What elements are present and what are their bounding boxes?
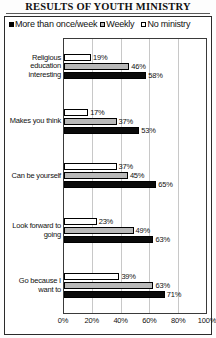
bar-row: 17% (64, 109, 206, 116)
bar-value-label: 58% (148, 71, 162, 80)
bar-value-label: 63% (155, 281, 169, 290)
bar-value-label: 19% (93, 53, 107, 62)
chart-frame: More than once/weekWeeklyNo ministry 19%… (4, 16, 212, 335)
bar-row: 63% (64, 282, 206, 289)
bar-row: 63% (64, 236, 206, 243)
legend-label: More than once/week (15, 19, 97, 29)
black-square-icon (9, 22, 14, 27)
bar-group: 37%45%65% (64, 149, 206, 204)
bar-group: 39%63%71% (64, 258, 206, 313)
bar-value-label: 49% (136, 226, 150, 235)
legend-label: No ministry (147, 19, 190, 29)
page-title: RESULTS OF YOUTH MINISTRY (0, 0, 216, 12)
bar-black (64, 127, 139, 134)
category-label: Look forward togoing (7, 222, 61, 239)
bar-value-label: 53% (141, 126, 155, 135)
x-tick-label: 20% (85, 316, 99, 325)
x-tick-label: 80% (171, 316, 185, 325)
bar-row: 53% (64, 127, 206, 134)
bar-gray (64, 63, 129, 70)
bar-value-label: 39% (121, 272, 135, 281)
bar-white (64, 109, 88, 116)
bar-white (64, 273, 119, 280)
bar-black (64, 236, 153, 243)
x-axis: 0%20%40%60%80%100% (63, 316, 207, 328)
bar-row: 19% (64, 54, 206, 61)
bar-value-label: 63% (155, 235, 169, 244)
bar-black (64, 181, 156, 188)
bar-value-label: 45% (130, 171, 144, 180)
legend-item-1: Weekly (100, 19, 134, 29)
category-label: Go because Iwant to (7, 277, 61, 294)
bar-value-label: 71% (167, 290, 181, 299)
chart-title: RESULTS OF YOUTH MINISTRY (0, 0, 216, 14)
x-tick-label: 100% (198, 316, 216, 325)
bar-row: 65% (64, 181, 206, 188)
chart-legend: More than once/weekWeeklyNo ministry (5, 17, 211, 29)
bar-row: 46% (64, 63, 206, 70)
bar-white (64, 163, 117, 170)
bar-row: 37% (64, 118, 206, 125)
legend-item-2: No ministry (141, 19, 190, 29)
bar-row: 49% (64, 227, 206, 234)
x-tick-label: 60% (142, 316, 156, 325)
plot-wrapper: 19%46%58%17%37%53%37%45%65%23%49%63%39%6… (5, 34, 211, 334)
bar-value-label: 37% (119, 162, 133, 171)
bar-row: 39% (64, 273, 206, 280)
bar-black (64, 72, 146, 79)
bar-value-label: 23% (99, 217, 113, 226)
bar-value-label: 65% (158, 180, 172, 189)
bar-value-label: 37% (119, 117, 133, 126)
white-square-icon (141, 22, 146, 27)
bar-group: 17%37%53% (64, 94, 206, 149)
bar-group: 19%46%58% (64, 39, 206, 94)
x-tick-label: 40% (113, 316, 127, 325)
category-label: Can be yourself (7, 172, 61, 181)
bar-gray (64, 118, 117, 125)
bar-group: 23%49%63% (64, 203, 206, 258)
bar-row: 23% (64, 218, 206, 225)
bar-row: 71% (64, 291, 206, 298)
legend-item-0: More than once/week (9, 19, 97, 29)
plot-area: 19%46%58%17%37%53%37%45%65%23%49%63%39%6… (63, 38, 207, 314)
bar-gray (64, 227, 134, 234)
legend-label: Weekly (106, 19, 134, 29)
bar-white (64, 218, 97, 225)
gray-square-icon (100, 22, 105, 27)
bar-gray (64, 172, 128, 179)
bar-row: 58% (64, 72, 206, 79)
category-label: Makes you think (7, 117, 61, 126)
bar-black (64, 291, 165, 298)
bar-white (64, 54, 91, 61)
title-underline-rule (6, 13, 210, 14)
bar-value-label: 17% (90, 108, 104, 117)
bar-value-label: 46% (131, 62, 145, 71)
bar-groups: 19%46%58%17%37%53%37%45%65%23%49%63%39%6… (64, 39, 206, 313)
bar-row: 45% (64, 172, 206, 179)
bar-gray (64, 282, 153, 289)
category-label: Religiouseducationinteresting (7, 54, 61, 80)
x-tick-label: 0% (58, 316, 68, 325)
bar-row: 37% (64, 163, 206, 170)
